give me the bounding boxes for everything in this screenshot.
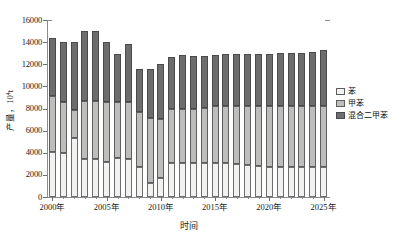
bar-segment bbox=[277, 53, 284, 106]
bar-segment bbox=[288, 106, 295, 167]
bar-segment bbox=[103, 102, 110, 162]
legend-item: 混合二甲苯 bbox=[336, 110, 398, 121]
x-axis-tick bbox=[161, 197, 162, 201]
bar-segment bbox=[309, 167, 316, 197]
bar-segment bbox=[179, 109, 186, 163]
bar-segment bbox=[136, 112, 143, 167]
bar-segment bbox=[288, 53, 295, 106]
bar-segment bbox=[125, 102, 132, 159]
y-axis-tick bbox=[43, 64, 47, 65]
bar-segment bbox=[212, 106, 219, 163]
x-axis-minor-tick bbox=[85, 197, 86, 199]
y-axis-tick bbox=[43, 109, 47, 110]
chart-figure: 0200040006000800010000120001400016000 产量… bbox=[0, 0, 399, 238]
y-axis-tick bbox=[43, 86, 47, 87]
x-axis-minor-tick bbox=[237, 197, 238, 199]
x-axis-minor-tick bbox=[204, 197, 205, 199]
x-axis-minor-tick bbox=[302, 197, 303, 199]
bar-segment bbox=[266, 54, 273, 107]
bar-segment bbox=[179, 163, 186, 197]
y-axis-tick bbox=[43, 42, 47, 43]
bar-segment bbox=[222, 54, 229, 105]
bar-segment bbox=[92, 159, 99, 197]
bar-segment bbox=[277, 167, 284, 197]
bar-segment bbox=[147, 183, 154, 197]
bar-segment bbox=[244, 54, 251, 107]
x-axis-minor-tick bbox=[193, 197, 194, 199]
bar-segment bbox=[298, 53, 305, 106]
y-axis-tick bbox=[43, 131, 47, 132]
x-axis-minor-tick bbox=[150, 197, 151, 199]
y-axis-tick-label: 14000 bbox=[2, 38, 42, 47]
bar-segment bbox=[81, 159, 88, 197]
bar-segment bbox=[49, 152, 56, 197]
bar-segment bbox=[71, 42, 78, 110]
bar-segment bbox=[255, 106, 262, 166]
bar-segment bbox=[71, 110, 78, 138]
bar-series-group bbox=[47, 20, 329, 197]
x-axis-tick bbox=[52, 197, 53, 201]
bar-segment bbox=[255, 166, 262, 197]
bar-segment bbox=[157, 64, 164, 119]
bar-segment bbox=[103, 42, 110, 102]
bar-segment bbox=[157, 178, 164, 197]
x-axis-minor-tick bbox=[172, 197, 173, 199]
bar-segment bbox=[233, 54, 240, 106]
bar-segment bbox=[168, 163, 175, 197]
bar-segment bbox=[81, 31, 88, 101]
y-axis-tick-label: 2000 bbox=[2, 170, 42, 179]
x-axis-minor-tick bbox=[248, 197, 249, 199]
x-axis-tick-label: 2015年 bbox=[202, 202, 228, 212]
bar-segment bbox=[309, 106, 316, 167]
legend-item: 苯 bbox=[336, 86, 398, 97]
bar-segment bbox=[212, 55, 219, 106]
legend-label: 苯 bbox=[348, 88, 356, 96]
bar-segment bbox=[125, 44, 132, 102]
bar-segment bbox=[201, 163, 208, 197]
x-axis-minor-tick bbox=[139, 197, 140, 199]
y-axis-tick-label: 4000 bbox=[2, 148, 42, 157]
legend-swatch bbox=[336, 88, 345, 95]
x-axis-minor-tick bbox=[183, 197, 184, 199]
x-axis-tick bbox=[107, 197, 108, 201]
bar-segment bbox=[320, 50, 327, 106]
x-axis-tick-label: 2005年 bbox=[94, 202, 120, 212]
bar-segment bbox=[92, 31, 99, 101]
bar-segment bbox=[222, 106, 229, 164]
legend-label: 甲苯 bbox=[348, 100, 364, 108]
x-axis-minor-tick bbox=[259, 197, 260, 199]
bar-segment bbox=[298, 167, 305, 197]
x-axis-minor-tick bbox=[313, 197, 314, 199]
bar-segment bbox=[190, 56, 197, 109]
x-axis-tick-label: 2000年 bbox=[39, 202, 65, 212]
bar-segment bbox=[190, 109, 197, 163]
chart-legend: 苯甲苯混合二甲苯 bbox=[336, 86, 398, 122]
bar-segment bbox=[92, 101, 99, 159]
x-axis-minor-tick bbox=[63, 197, 64, 199]
x-axis-tick bbox=[324, 197, 325, 201]
bar-segment bbox=[298, 106, 305, 167]
bar-segment bbox=[60, 42, 67, 102]
bar-segment bbox=[266, 167, 273, 197]
x-axis-tick bbox=[215, 197, 216, 201]
bar-segment bbox=[103, 162, 110, 197]
bar-segment bbox=[157, 119, 164, 178]
x-axis-line bbox=[47, 197, 330, 198]
bar-segment bbox=[147, 118, 154, 182]
bar-segment bbox=[233, 106, 240, 164]
bar-segment bbox=[60, 153, 67, 197]
y-axis-tick bbox=[43, 175, 47, 176]
bar-segment bbox=[71, 138, 78, 197]
bar-segment bbox=[136, 69, 143, 112]
y-axis-tick-label: 16000 bbox=[2, 16, 42, 25]
bar-segment bbox=[147, 69, 154, 119]
plot-area bbox=[47, 20, 329, 197]
x-axis-minor-tick bbox=[226, 197, 227, 199]
bar-segment bbox=[60, 102, 67, 153]
y-axis-title: 产量，104t bbox=[3, 75, 16, 145]
x-axis-minor-tick bbox=[74, 197, 75, 199]
bar-segment bbox=[81, 101, 88, 159]
y-axis-tick bbox=[43, 20, 47, 21]
x-axis-tick-label: 2010年 bbox=[148, 202, 174, 212]
bar-segment bbox=[255, 54, 262, 107]
